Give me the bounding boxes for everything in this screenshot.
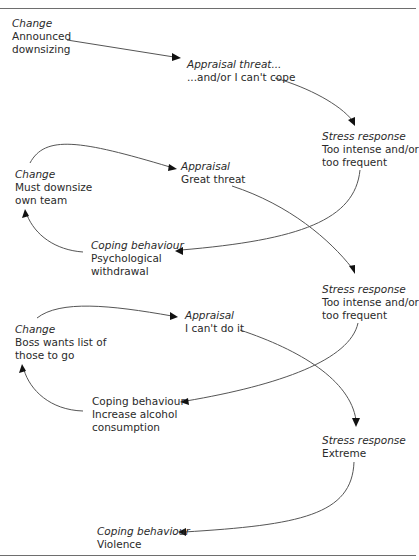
node-text: downsizing	[12, 43, 71, 56]
node-text: Boss wants list of	[15, 336, 106, 349]
node-category: Appraisal	[185, 309, 244, 322]
node-text: Psychological	[91, 252, 184, 265]
edge-stress2-coping2	[180, 323, 358, 405]
edge-coping2-change3	[19, 364, 83, 411]
node-category: Change	[15, 168, 92, 181]
node-category: Coping behaviour	[97, 525, 190, 538]
node-text: those to go	[15, 349, 106, 362]
node-text: consumption	[92, 421, 185, 434]
node-change-announced-downsizing: Change Announced downsizing	[12, 17, 71, 56]
edge-appraisal3-stress3	[240, 330, 360, 427]
node-change-must-downsize: Change Must downsize own team	[15, 168, 92, 207]
node-category: Stress response	[322, 283, 419, 296]
node-text: ...and/or I can't cope	[187, 71, 295, 84]
node-category: Stress response	[322, 130, 419, 143]
edge-appraisal1-stress1	[275, 78, 355, 126]
edge-coping1-change2	[22, 209, 83, 252]
node-text: Must downsize	[15, 181, 92, 194]
node-coping-increase-alcohol: Coping behaviour Increase alcohol consum…	[92, 395, 185, 434]
node-category: Appraisal threat...	[187, 58, 295, 71]
node-text: own team	[15, 194, 92, 207]
node-text: Announced	[12, 30, 71, 43]
edge-appraisal2-stress2	[232, 186, 355, 274]
node-text: withdrawal	[91, 265, 184, 278]
node-text: Too intense and/or	[322, 296, 419, 309]
node-category: Change	[12, 17, 71, 30]
edge-change3-appraisal3	[37, 306, 178, 320]
node-category: Stress response	[322, 434, 406, 447]
edge-change2-appraisal2	[30, 144, 177, 171]
node-text: too frequent	[322, 156, 419, 169]
node-category: Coping behaviour	[92, 395, 185, 408]
node-appraisal-cant-do-it: Appraisal I can't do it	[185, 309, 244, 335]
edge-change1-appraisal1	[67, 40, 181, 61]
node-appraisal-threat: Appraisal threat... ...and/or I can't co…	[187, 58, 295, 84]
node-coping-violence: Coping behaviour Violence	[97, 525, 190, 551]
node-text: Increase alcohol	[92, 408, 185, 421]
node-text: Great threat	[181, 173, 245, 186]
node-text: Too intense and/or	[322, 143, 419, 156]
edge-stress3-coping3	[178, 462, 354, 536]
node-text: Violence	[97, 538, 190, 551]
node-category: Appraisal	[181, 160, 245, 173]
node-text: Extreme	[322, 447, 406, 460]
node-category: Coping behaviour	[91, 239, 184, 252]
node-stress-response-extreme: Stress response Extreme	[322, 434, 406, 460]
node-stress-response-2: Stress response Too intense and/or too f…	[322, 283, 419, 322]
node-category: Change	[15, 323, 106, 336]
node-coping-psychological-withdrawal: Coping behaviour Psychological withdrawa…	[91, 239, 184, 278]
node-text: I can't do it	[185, 322, 244, 335]
node-appraisal-great-threat: Appraisal Great threat	[181, 160, 245, 186]
node-stress-response-1: Stress response Too intense and/or too f…	[322, 130, 419, 169]
node-change-boss-wants-list: Change Boss wants list of those to go	[15, 323, 106, 362]
node-text: too frequent	[322, 309, 419, 322]
